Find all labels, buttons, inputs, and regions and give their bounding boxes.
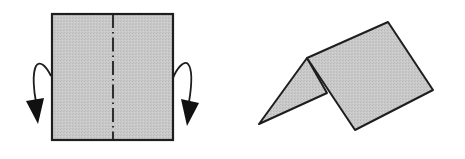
tent-front-panel xyxy=(307,22,433,130)
step2-folded-tent xyxy=(259,22,433,130)
fold-arrow-left-icon xyxy=(26,64,51,124)
step1-folding-square xyxy=(26,14,199,140)
fold-arrow-right-icon xyxy=(173,63,199,126)
origami-diagram xyxy=(0,0,465,159)
